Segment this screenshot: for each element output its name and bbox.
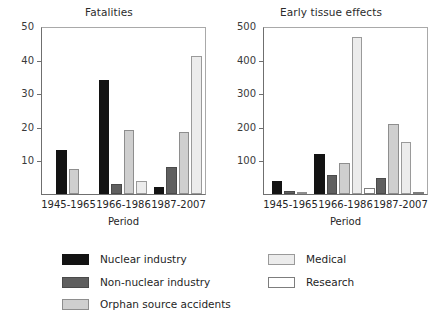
y-tick-mark [259,128,264,129]
bar [314,154,325,194]
legend-item-label: Research [306,277,354,288]
plot-area-early-tissue-effects [263,27,428,195]
legend-swatch-icon [62,299,89,310]
y-tick-label: 500 [226,22,256,32]
legend-item[interactable]: Nuclear industry [62,250,231,269]
legend-item[interactable]: Medical [268,250,354,269]
bar-group [264,28,319,194]
legend-item-label: Nuclear industry [100,254,187,265]
y-tick-label: 300 [226,89,256,99]
x-tick-label: 1987-2007 [373,199,428,210]
y-tick-mark [37,61,42,62]
y-tick-mark [259,61,264,62]
x-tick-label: 1945-1965 [41,199,96,210]
bar [154,187,165,194]
panel-fatalities: Fatalities 1020304050 1945-19651966-1986… [4,0,214,240]
bar [297,192,308,194]
bar-group [319,28,374,194]
y-tick-label: 400 [226,56,256,66]
x-tick-label: 1966-1986 [96,199,151,210]
legend-swatch-icon [268,254,295,265]
legend: Nuclear industryNon-nuclear industryOrph… [0,250,443,330]
bars-container-early-tissue-effects [264,28,427,194]
bar [388,124,399,194]
bar [352,37,363,194]
x-axis-label-fatalities: Period [41,216,206,227]
bar [191,56,202,194]
bar [413,192,424,194]
legend-swatch-icon [62,277,89,288]
panel-title-fatalities: Fatalities [4,6,214,18]
plot-area-fatalities [41,27,206,195]
y-tick-label: 50 [4,22,34,32]
legend-item-label: Non-nuclear industry [100,277,210,288]
x-tick-label: 1987-2007 [151,199,206,210]
legend-column-right: MedicalResearch [268,250,354,295]
bar [401,142,412,194]
legend-item[interactable]: Research [268,273,354,292]
bar [327,175,338,194]
bar-group [97,28,152,194]
y-tick-label: 30 [4,89,34,99]
legend-item-label: Orphan source accidents [100,299,231,310]
y-tick-label: 200 [226,123,256,133]
y-tick-mark [37,161,42,162]
y-tick-label: 10 [4,156,34,166]
bar [376,178,387,194]
bar [272,181,283,194]
panel-early-tissue-effects: Early tissue effects 100200300400500 194… [226,0,436,240]
bar [111,184,122,194]
legend-item[interactable]: Non-nuclear industry [62,273,231,292]
bar [99,80,110,194]
bar [179,132,190,194]
legend-swatch-icon [268,277,295,288]
bar [339,163,350,194]
y-tick-label: 100 [226,156,256,166]
bar-group [374,28,429,194]
bar-group [42,28,97,194]
bar [56,150,67,194]
y-tick-mark [259,161,264,162]
x-tick-label: 1966-1986 [318,199,373,210]
legend-column-left: Nuclear industryNon-nuclear industryOrph… [62,250,231,318]
bar-group [152,28,207,194]
y-tick-mark [259,94,264,95]
figure-root: Fatalities 1020304050 1945-19651966-1986… [0,0,443,330]
bar [124,130,135,194]
legend-item[interactable]: Orphan source accidents [62,295,231,314]
legend-item-label: Medical [306,254,346,265]
bar [166,167,177,194]
bar [69,169,80,194]
x-axis-label-early-tissue-effects: Period [263,216,428,227]
panel-title-early-tissue-effects: Early tissue effects [226,6,436,18]
y-tick-label: 40 [4,56,34,66]
bar [284,191,295,194]
y-tick-label: 20 [4,123,34,133]
bar [136,181,147,194]
y-tick-mark [37,94,42,95]
legend-swatch-icon [62,254,89,265]
bars-container-fatalities [42,28,205,194]
y-tick-mark [37,128,42,129]
x-tick-label: 1945-1965 [263,199,318,210]
